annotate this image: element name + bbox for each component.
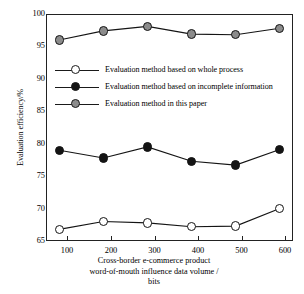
x-tick-label-200: 200	[96, 246, 126, 255]
legend-item-whole-process: Evaluation method based on whole process	[55, 62, 270, 79]
data-point	[99, 26, 108, 35]
data-point	[143, 142, 152, 151]
x-tick-mark-200	[111, 236, 112, 241]
x-tick-label-300: 300	[140, 246, 170, 255]
legend-label: Evaluation method based on incomplete in…	[105, 81, 273, 93]
data-point	[55, 35, 64, 44]
x-tick-label-100: 100	[52, 246, 82, 255]
data-point	[99, 153, 108, 162]
data-point	[231, 221, 240, 230]
filled-circle-icon	[71, 82, 80, 91]
data-point	[231, 160, 240, 169]
open-circle-icon	[71, 65, 80, 74]
y-tick-label-85: 85	[23, 107, 45, 115]
x-tick-label-600: 600	[270, 246, 300, 255]
x-tick-mark-300	[155, 236, 156, 241]
data-point	[143, 22, 152, 31]
y-tick-label-70: 70	[23, 205, 45, 213]
chart-figure: Evaluation efficiency/% 100 95 90 85 80 …	[0, 0, 304, 294]
data-point	[187, 157, 196, 166]
y-tick-label-80: 80	[23, 140, 45, 148]
x-axis-title-line3: bits	[30, 277, 278, 288]
x-axis-title-line2: word-of-mouth influence data volume /	[30, 267, 278, 278]
x-axis-title-line1: Cross-border e-commerce product	[30, 256, 278, 267]
plot-area	[46, 14, 293, 241]
y-tick-label-65: 65	[23, 237, 45, 245]
data-point	[143, 218, 152, 227]
data-point	[55, 146, 64, 155]
x-tick-mark-400	[198, 236, 199, 241]
y-tick-label-90: 90	[23, 75, 45, 83]
data-point	[187, 29, 196, 38]
x-tick-label-400: 400	[183, 246, 213, 255]
x-tick-mark-100	[67, 236, 68, 241]
legend-item-this-paper: Evaluation method in this paper	[55, 96, 270, 113]
y-tick-label-95: 95	[23, 42, 45, 50]
chart-legend: Evaluation method based on whole process…	[55, 62, 270, 113]
gray-circle-icon	[71, 99, 80, 108]
legend-label: Evaluation method in this paper	[105, 98, 207, 110]
legend-label: Evaluation method based on whole process	[105, 64, 243, 76]
x-tick-mark-500	[242, 236, 243, 241]
x-axis-title: Cross-border e-commerce product word-of-…	[30, 256, 278, 288]
x-tick-label-500: 500	[227, 246, 257, 255]
data-point	[55, 225, 64, 234]
y-tick-label-75: 75	[23, 172, 45, 180]
legend-item-incomplete-information: Evaluation method based on incomplete in…	[55, 79, 270, 96]
x-tick-mark-600	[285, 236, 286, 241]
y-tick-label-100: 100	[23, 10, 45, 18]
